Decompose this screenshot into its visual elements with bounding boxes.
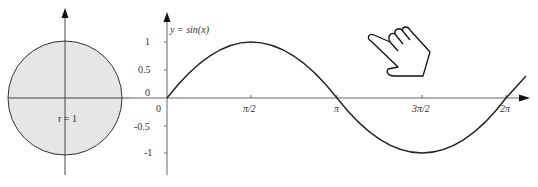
- radius-label: r = 1: [58, 113, 77, 124]
- y-tick-0.5: 0.5: [138, 64, 151, 75]
- origin-label: 0: [156, 103, 161, 114]
- function-label: y = sin(x): [169, 24, 210, 36]
- x-tick-pi-2: π/2: [243, 103, 256, 114]
- x-tick-3pi-2: 3π/2: [411, 103, 430, 114]
- y-tick-neg-1: -1: [144, 147, 152, 158]
- y-tick-neg-0.5: -0.5: [134, 121, 150, 132]
- unit-circle: r = 1: [8, 8, 130, 175]
- diagram: r = 1 1 0.5 0 -0.5 -1 0 π/2 π 3π/2 2π y …: [0, 0, 538, 187]
- y-axis-arrow-icon: [164, 12, 171, 22]
- pointing-hand-icon: [368, 27, 430, 76]
- x-axis-arrow-icon: [519, 95, 530, 102]
- y-tick-1: 1: [145, 36, 150, 47]
- sine-axes: 1 0.5 0 -0.5 -1 0 π/2 π 3π/2 2π y = sin(…: [130, 12, 530, 175]
- circle-y-axis-arrow-icon: [62, 8, 69, 18]
- y-tick-0: 0: [145, 87, 150, 98]
- x-tick-pi: π: [334, 103, 340, 114]
